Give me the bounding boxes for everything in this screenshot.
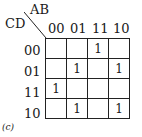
kmap-row: 1 1 <box>46 99 130 119</box>
diagonal-divider <box>24 12 48 39</box>
kmap-cell <box>88 79 109 99</box>
kmap-cell: 1 <box>109 99 130 119</box>
figure-caption: (c) <box>2 121 14 134</box>
col-label: 11 <box>92 22 109 35</box>
col-label: 10 <box>113 22 130 35</box>
kmap-cell <box>109 79 130 99</box>
kmap-cell <box>67 39 88 59</box>
col-label: 01 <box>70 22 87 35</box>
kmap-cell <box>46 59 67 79</box>
kmap-cell: 1 <box>67 99 88 119</box>
kmap-row: 1 <box>46 39 130 59</box>
kmap-cell <box>67 79 88 99</box>
col-label: 00 <box>48 22 65 35</box>
row-label: 01 <box>24 65 41 78</box>
kmap-row: 1 <box>46 79 130 99</box>
kmap-cell: 1 <box>109 59 130 79</box>
kmap-cell <box>109 39 130 59</box>
row-label: 10 <box>24 107 41 120</box>
kmap-cell <box>88 59 109 79</box>
kmap-row: 1 1 <box>46 59 130 79</box>
row-label: 11 <box>24 86 41 99</box>
karnaugh-map-grid: 1 1 1 1 1 1 <box>45 38 130 119</box>
row-variable-label: CD <box>5 17 25 30</box>
kmap-cell: 1 <box>88 39 109 59</box>
row-label: 00 <box>24 44 41 57</box>
kmap-cell: 1 <box>67 59 88 79</box>
kmap-cell <box>46 39 67 59</box>
kmap-cell: 1 <box>46 79 67 99</box>
kmap-cell <box>88 99 109 119</box>
kmap-cell <box>46 99 67 119</box>
